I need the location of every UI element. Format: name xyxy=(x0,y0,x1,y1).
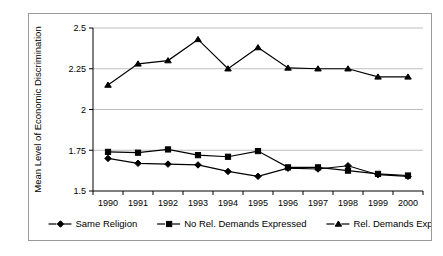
y-tick-label-1.5: 1.5 xyxy=(73,186,86,196)
legend-entry-1: No Rel. Demands Expressed xyxy=(157,218,307,229)
x-tick-label-1992: 1992 xyxy=(158,198,178,208)
economic-discrimination-line-chart: 1.51.7522.252.5 199019911992199319941995… xyxy=(29,14,431,240)
x-tick-label-1997: 1997 xyxy=(308,198,328,208)
x-tick-label-1993: 1993 xyxy=(188,198,208,208)
legend-marker-triangle xyxy=(335,221,342,226)
series-2-point-1993 xyxy=(195,36,202,41)
plot-series xyxy=(105,36,412,179)
y-tick-label-2.5: 2.5 xyxy=(73,23,86,33)
x-tick-label-1995: 1995 xyxy=(248,198,268,208)
series-0-point-1991 xyxy=(135,160,142,167)
y-axis: 1.51.7522.252.5 xyxy=(68,23,93,196)
x-tick-label-2000: 2000 xyxy=(398,198,418,208)
series-0-point-1990 xyxy=(105,155,112,162)
y-tick-label-2.25: 2.25 xyxy=(68,64,86,74)
series-0-point-1992 xyxy=(165,161,172,168)
series-1-point-1996 xyxy=(285,165,290,170)
series-1-point-2000 xyxy=(405,173,410,178)
legend-label-0: Same Religion xyxy=(76,218,138,229)
series-1-point-1993 xyxy=(195,153,200,158)
series-1-point-1997 xyxy=(315,165,320,170)
chart-legend: Same ReligionNo Rel. Demands ExpressedRe… xyxy=(49,218,432,229)
y-axis-title-text: Mean Level of Economic Discrimination xyxy=(32,26,43,192)
series-0-point-1993 xyxy=(195,162,202,169)
series-1-point-1995 xyxy=(255,148,260,153)
y-tick-label-2: 2 xyxy=(81,105,86,115)
y-axis-title: Mean Level of Economic Discrimination xyxy=(32,26,43,192)
legend-entry-2: Rel. Demands Expressed xyxy=(326,218,431,229)
series-1-point-1994 xyxy=(225,154,230,159)
x-tick-label-1990: 1990 xyxy=(98,198,118,208)
legend-marker-square xyxy=(167,221,172,226)
x-tick-label-1991: 1991 xyxy=(128,198,148,208)
legend-entry-0: Same Religion xyxy=(49,218,138,229)
x-tick-label-1999: 1999 xyxy=(368,198,388,208)
series-1-point-1991 xyxy=(135,150,140,155)
series-0-point-1995 xyxy=(255,173,262,180)
x-tick-label-1994: 1994 xyxy=(218,198,238,208)
series-1-point-1992 xyxy=(165,147,170,152)
legend-label-1: No Rel. Demands Expressed xyxy=(184,218,307,229)
chart-frame: 1.51.7522.252.5 199019911992199319941995… xyxy=(28,13,432,241)
series-1-point-1999 xyxy=(375,171,380,176)
x-tick-label-1996: 1996 xyxy=(278,198,298,208)
y-tick-label-1.75: 1.75 xyxy=(68,146,86,156)
series-1-point-1998 xyxy=(345,168,350,173)
x-tick-label-1998: 1998 xyxy=(338,198,358,208)
legend-marker-diamond xyxy=(57,221,64,228)
series-2-point-1995 xyxy=(255,45,262,50)
legend-label-2: Rel. Demands Expressed xyxy=(353,218,431,229)
series-1-point-1990 xyxy=(105,149,110,154)
series-0-point-1994 xyxy=(225,168,232,175)
x-axis: 1990199119921993199419951996199719981999… xyxy=(93,191,423,208)
